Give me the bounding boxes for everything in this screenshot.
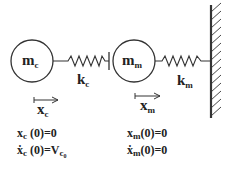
- ic-m-position: xm(0)=0: [127, 126, 167, 141]
- wall-hatching: [211, 3, 221, 116]
- mass-c: mc: [11, 40, 53, 82]
- displacement-m-label: xm: [140, 97, 156, 115]
- displacement-c-label: xc: [37, 101, 49, 119]
- mass-c-label: mc: [22, 52, 39, 70]
- ic-c-position: xc (0)=0: [17, 126, 57, 141]
- spring-c: [53, 52, 109, 70]
- displacement-arrow-m: [135, 93, 160, 99]
- ic-c-velocity: ẋc (0)=Vc0: [17, 143, 67, 159]
- ic-m-velocity: ẋm(0)=0: [127, 143, 167, 158]
- spring-c-label: kc: [77, 71, 89, 89]
- mass-m: mm: [113, 40, 155, 82]
- spring-m: [155, 56, 211, 66]
- spring-m-label: km: [177, 72, 193, 90]
- mass-spring-diagram: mc kc mm km: [0, 0, 230, 173]
- mass-m-label: mm: [122, 52, 143, 70]
- fixed-wall: [211, 3, 221, 118]
